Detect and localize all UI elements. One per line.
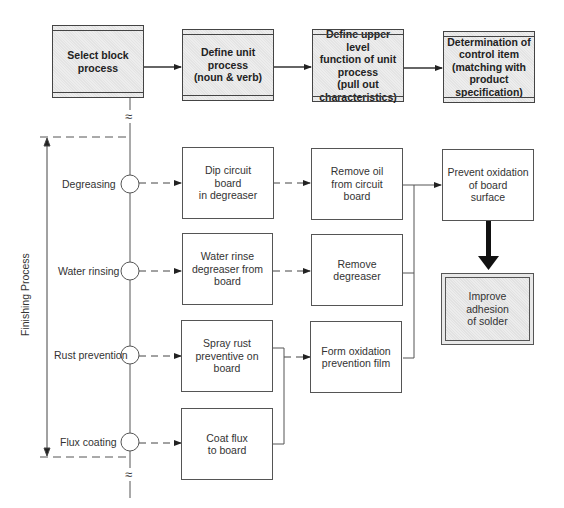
header-step-determine-control: Determination of control item (matching …	[443, 31, 535, 103]
header-band-top	[313, 34, 403, 35]
function-form-oxidation-film: Form oxidation prevention film	[310, 321, 402, 393]
break-symbol-bottom: ≈	[125, 468, 132, 481]
unit-process-coat-flux: Coat flux to board	[181, 408, 273, 480]
step-label-degreasing: Degreasing	[62, 178, 116, 190]
header-band-bottom	[183, 95, 273, 96]
header-step-label: Define upper level function of unit proc…	[313, 28, 403, 103]
step-to-unit-arrows	[139, 183, 181, 443]
finishing-process-label: Finishing Process	[19, 256, 31, 336]
header-step-label: Determination of control item (matching …	[447, 36, 530, 99]
header-band-bottom	[313, 96, 403, 97]
header-band-bottom	[444, 97, 534, 98]
control-improve-adhesion-label: Improve adhesion of solder	[445, 277, 530, 341]
step-label-flux-coating: Flux coating	[60, 436, 117, 448]
unit-process-dip-board: Dip circuit board in degreaser	[182, 147, 274, 219]
unit-process-spray-rust: Spray rust preventive on board	[181, 320, 273, 392]
header-band-top	[53, 30, 143, 31]
header-step-select-block: Select block process	[52, 25, 144, 98]
header-band-top	[183, 34, 273, 35]
step-label-water-rinsing: Water rinsing	[58, 265, 119, 277]
control-improve-adhesion: Improve adhesion of solder	[441, 273, 534, 345]
header-step-label: Select block process	[67, 49, 128, 74]
header-band-bottom	[53, 92, 143, 93]
control-prevent-oxidation: Prevent oxidation of board surface	[442, 149, 534, 221]
function-remove-oil: Remove oil from circuit board	[311, 148, 403, 220]
header-band-top	[444, 36, 534, 37]
finishing-range-arrow	[44, 138, 50, 456]
bold-arrow-down	[478, 221, 499, 270]
unit-merge-bracket	[273, 348, 284, 444]
step-label-rust-prevention: Rust prevention	[54, 349, 128, 361]
unit-to-function-arrows	[273, 183, 310, 357]
header-step-label: Define unit process (noun & verb)	[194, 46, 262, 84]
break-symbol-top: ≈	[125, 110, 132, 123]
header-step-define-unit: Define unit process (noun & verb)	[182, 29, 274, 101]
function-merge-bracket	[403, 185, 441, 358]
unit-process-water-rinse: Water rinse degreaser from board	[182, 233, 273, 305]
function-remove-degreaser: Remove degreaser	[311, 234, 403, 306]
header-step-define-upper-function: Define upper level function of unit proc…	[312, 29, 404, 102]
